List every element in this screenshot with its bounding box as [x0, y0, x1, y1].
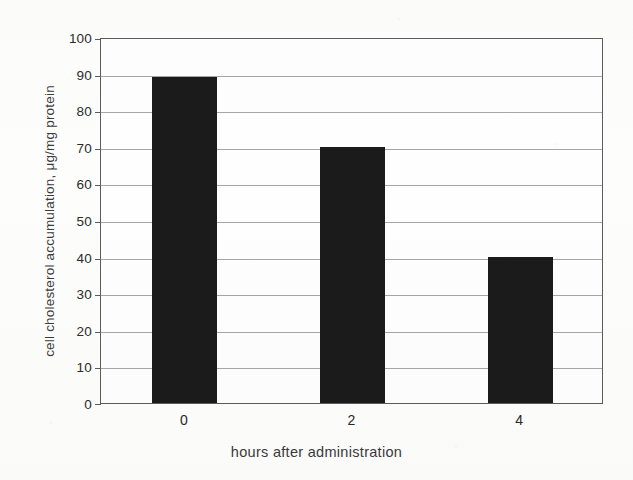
plot-area — [100, 38, 603, 404]
y-axis-tick — [95, 185, 101, 186]
bar — [320, 147, 385, 403]
y-axis-tick — [95, 295, 101, 296]
bar-chart-figure: 1009080706050403020100 024 cell choleste… — [0, 0, 633, 480]
y-axis-tick — [95, 149, 101, 150]
x-axis-tick-label: 0 — [180, 412, 188, 428]
x-axis-tick-label: 4 — [515, 412, 523, 428]
y-axis-tick — [95, 332, 101, 333]
y-axis-tick — [95, 259, 101, 260]
y-axis-tick — [95, 39, 101, 40]
y-axis-title: cell cholesterol accumulation, μg/mg pro… — [42, 38, 64, 404]
x-axis-tick-label: 2 — [348, 412, 356, 428]
bar — [152, 77, 217, 403]
y-axis-tick — [95, 222, 101, 223]
bar — [488, 257, 553, 403]
y-axis-tick — [95, 368, 101, 369]
y-axis-tick — [95, 112, 101, 113]
y-axis-tick — [95, 76, 101, 77]
x-axis-title: hours after administration — [0, 444, 633, 460]
y-axis-tick — [95, 404, 101, 405]
